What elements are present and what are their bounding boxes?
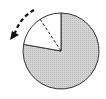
- diagram-canvas: [0, 0, 106, 99]
- unshaded-wedge: [24, 13, 61, 51]
- pie-rotation-diagram: [0, 0, 106, 99]
